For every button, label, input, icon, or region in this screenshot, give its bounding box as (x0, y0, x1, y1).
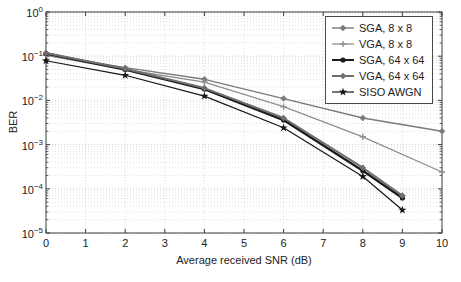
legend-line-sample (331, 54, 355, 66)
x-tick-label: 3 (162, 238, 168, 249)
legend-label: VGA, 64 x 64 (359, 70, 424, 82)
x-tick-label: 5 (241, 238, 247, 249)
legend-label: SGA, 64 x 64 (359, 54, 424, 66)
legend-entry-vga-8-x-8: VGA, 8 x 8 (331, 36, 424, 52)
y-tick-label: 10−3 (0, 139, 43, 152)
x-tick-label: 6 (281, 238, 287, 249)
legend-line-sample (331, 86, 355, 98)
legend-label: VGA, 8 x 8 (359, 38, 412, 50)
y-tick-label: 10−2 (0, 94, 43, 107)
legend-entry-vga-64-x-64: VGA, 64 x 64 (331, 68, 424, 84)
x-tick-label: 0 (43, 238, 49, 249)
y-tick-label: 10−1 (0, 50, 43, 63)
y-tick-label: 10−5 (0, 227, 43, 240)
legend-entry-sga-64-x-64: SGA, 64 x 64 (331, 52, 424, 68)
x-axis-label: Average received SNR (dB) (176, 254, 312, 266)
x-tick-label: 7 (320, 238, 326, 249)
x-tick-label: 8 (360, 238, 366, 249)
x-tick-label: 9 (399, 238, 405, 249)
legend-line-sample (331, 70, 355, 82)
ber-vs-snr-chart: 10010−110−210−310−410−5012345678910 Aver… (0, 0, 461, 282)
x-tick-label: 4 (201, 238, 207, 249)
y-axis-label: BER (7, 111, 19, 134)
legend-entry-siso-awgn: SISO AWGN (331, 84, 424, 100)
x-tick-label: 10 (436, 238, 448, 249)
legend-label: SGA, 8 x 8 (359, 22, 412, 34)
y-tick-label: 10−4 (0, 183, 43, 196)
y-tick-label: 100 (0, 6, 43, 19)
legend-entry-sga-8-x-8: SGA, 8 x 8 (331, 20, 424, 36)
legend-label: SISO AWGN (359, 86, 422, 98)
legend-box: SGA, 8 x 8VGA, 8 x 8SGA, 64 x 64VGA, 64 … (325, 16, 433, 104)
x-tick-label: 1 (83, 238, 89, 249)
x-tick-label: 2 (122, 238, 128, 249)
legend-line-sample (331, 22, 355, 34)
legend-line-sample (331, 38, 355, 50)
